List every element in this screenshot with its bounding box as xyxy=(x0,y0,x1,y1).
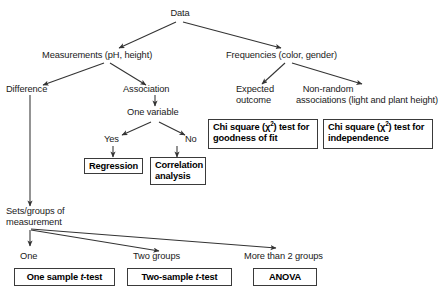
node-difference: Difference xyxy=(6,84,47,95)
arrow-sets-to-two-groups xyxy=(31,230,159,251)
nonrandom-line1: Non-random xyxy=(296,84,360,95)
chi-independence-prefix: Chi square (χ xyxy=(328,122,385,132)
arrow-data-to-measurements xyxy=(119,22,176,48)
chi-independence-line2: independence xyxy=(328,133,428,144)
node-frequencies: Frequencies (color, gender) xyxy=(226,50,337,61)
one-sample-post: -test xyxy=(83,272,102,282)
expected-line1: Expected xyxy=(236,84,274,95)
box-two-sample-t-test[interactable]: Two-sample t-test xyxy=(127,268,232,286)
box-chi-square-goodness-of-fit[interactable]: Chi square (χ2) test for goodness of fit xyxy=(208,119,318,149)
node-expected-outcome: Expected outcome xyxy=(236,84,274,106)
arrow-frequencies-to-expected xyxy=(262,63,285,84)
two-sample-pre: Two-sample xyxy=(142,272,196,282)
box-correlation-analysis[interactable]: Correlation analysis xyxy=(150,157,206,185)
arrow-sets-to-more-groups xyxy=(31,229,276,248)
arrow-data-to-frequencies xyxy=(183,22,281,48)
correlation-line1: Correlation xyxy=(155,160,201,171)
chi-independence-line1: Chi square (χ2) test for xyxy=(328,122,428,133)
node-sets-groups-of-measurement: Sets/groups of measurement xyxy=(6,206,65,228)
anova-label: ANOVA xyxy=(269,272,301,282)
node-one-variable: One variable xyxy=(127,107,179,118)
node-group-two: Two groups xyxy=(133,251,180,262)
chi-goodness-prefix: Chi square (χ xyxy=(213,122,270,132)
arrow-onevariable-to-no xyxy=(159,122,185,135)
flowchart-canvas: Data Measurements (pH, height) Frequenci… xyxy=(0,0,447,302)
chi-goodness-mid: ) test for xyxy=(274,122,310,132)
correlation-line2: analysis xyxy=(155,171,201,182)
nonrandom-line2: associations (light and plant height) xyxy=(296,95,438,106)
sets-line2: measurement xyxy=(6,217,65,228)
box-anova[interactable]: ANOVA xyxy=(253,268,317,286)
node-group-more: More than 2 groups xyxy=(244,251,323,262)
chi-goodness-line2: goodness of fit xyxy=(213,133,313,144)
node-yes: Yes xyxy=(104,134,119,145)
node-measurements: Measurements (pH, height) xyxy=(42,50,152,61)
two-sample-post: -test xyxy=(199,272,218,282)
expected-line2: outcome xyxy=(236,95,274,106)
box-chi-square-independence[interactable]: Chi square (χ2) test for independence xyxy=(323,119,433,149)
arrow-frequencies-to-nonrandom xyxy=(292,63,362,84)
box-one-sample-t-test[interactable]: One sample t-test xyxy=(14,268,115,286)
arrow-measurements-to-association xyxy=(110,63,146,85)
node-data: Data xyxy=(160,8,200,19)
box-regression[interactable]: Regression xyxy=(84,158,143,174)
node-association: Association xyxy=(123,84,169,95)
one-sample-pre: One sample xyxy=(27,272,81,282)
arrow-onevariable-to-yes xyxy=(122,122,151,135)
node-nonrandom-associations: Non-random associations (light and plant… xyxy=(296,84,438,106)
sets-line1: Sets/groups of xyxy=(6,206,65,217)
node-no: No xyxy=(185,134,197,145)
arrow-measurements-to-difference xyxy=(43,63,104,85)
chi-independence-mid: ) test for xyxy=(389,122,425,132)
chi-goodness-line1: Chi square (χ2) test for xyxy=(213,122,313,133)
arrow-layer xyxy=(0,0,447,302)
node-group-one: One xyxy=(20,251,37,262)
